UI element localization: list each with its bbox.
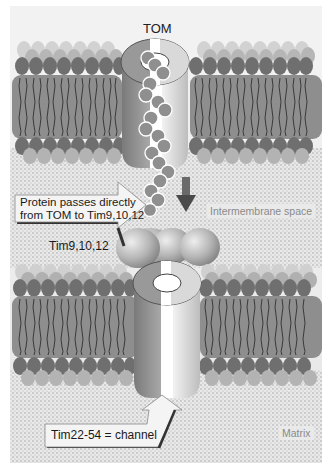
intermembrane-space-label: Intermembrane space (207, 204, 315, 218)
protein-import-diagram: TOM Protein passes directly from TOM to … (0, 0, 328, 472)
callout-protein-passes-line2: from TOM to Tim9,10,12 (20, 209, 144, 222)
matrix-label: Matrix (279, 426, 314, 440)
tim22-54-channel (133, 261, 201, 398)
tom-label: TOM (143, 21, 172, 36)
diagram-canvas (0, 0, 328, 472)
callout-protein-passes-line1: Protein passes directly (20, 196, 136, 209)
tim9-10-12-label: Tim9,10,12 (49, 239, 109, 253)
callout-tim22-label: Tim22-54 = channel (51, 429, 157, 442)
